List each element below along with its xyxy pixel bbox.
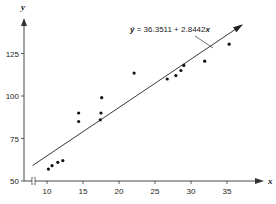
- data-point: [228, 43, 231, 46]
- data-point: [56, 161, 59, 164]
- data-point: [166, 77, 169, 80]
- data-point: [179, 69, 182, 72]
- data-point: [50, 164, 53, 167]
- y-axis-arrowhead: [21, 18, 27, 26]
- x-tick-label: 25: [151, 187, 160, 196]
- data-point: [77, 111, 80, 114]
- y-tick-label: 75: [10, 135, 19, 144]
- regression-equation-label: ŷ = 36.3511 + 2.8442x: [129, 25, 210, 34]
- y-tick-label: 125: [6, 50, 20, 59]
- equation-annotation: ŷ = 36.3511 + 2.8442x: [129, 25, 213, 48]
- scatter-chart: y x 1015202530355075100125 ŷ = 36.3511 +…: [0, 0, 276, 204]
- data-point: [99, 118, 102, 121]
- data-point: [47, 168, 50, 171]
- data-point: [203, 60, 206, 63]
- x-tick-label: 20: [115, 187, 124, 196]
- data-point: [99, 111, 102, 114]
- data-point: [133, 71, 136, 74]
- y-tick-label: 100: [6, 92, 20, 101]
- regression-line-group: [33, 24, 243, 165]
- equation-leader-line: [195, 36, 213, 48]
- data-point: [61, 159, 64, 162]
- x-tick-label: 15: [79, 187, 88, 196]
- x-tick-label: 35: [223, 187, 232, 196]
- data-point: [77, 120, 80, 123]
- y-tick-label: 50: [10, 177, 19, 186]
- regression-arrowhead: [233, 24, 243, 32]
- y-axis-title: y: [20, 2, 26, 12]
- data-points: [47, 43, 231, 171]
- x-tick-label: 30: [187, 187, 196, 196]
- data-point: [182, 64, 185, 67]
- data-point: [100, 96, 103, 99]
- x-axis-arrowhead: [255, 178, 264, 184]
- x-axis-title: x: [267, 176, 273, 186]
- x-tick-label: 10: [43, 187, 52, 196]
- ticks: 1015202530355075100125: [6, 50, 232, 197]
- data-point: [174, 74, 177, 77]
